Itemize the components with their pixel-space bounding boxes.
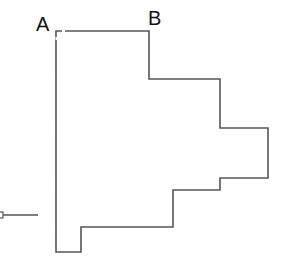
label-a: A <box>36 13 50 35</box>
terminal-square-icon <box>0 212 3 218</box>
stepped-outline-diagram: A B <box>0 0 284 268</box>
label-b: B <box>148 7 161 29</box>
stepped-polygon-outline <box>56 31 268 252</box>
